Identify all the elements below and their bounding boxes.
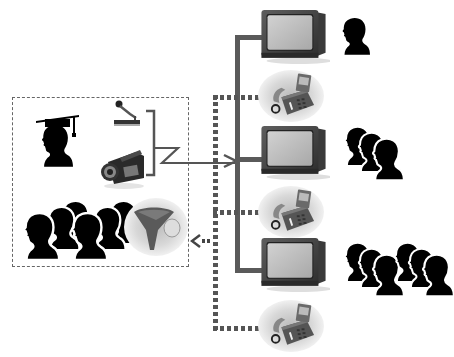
remote-1-audience-icon [340,14,370,58]
remote-3-tv-monitor-icon [258,236,330,292]
remote-1-tv-monitor-icon [258,8,330,64]
audio-branch-3 [213,326,261,331]
remote-2-audience-group-icon [342,124,406,184]
remote-2-telephone-icon [268,188,316,232]
remote-3-audience-group-icon [342,240,454,300]
av-source-bracket [140,108,240,180]
remote-2-tv-monitor-icon [258,124,330,180]
microphone-icon [110,100,142,128]
diagram-canvas: Distance learning videoconference networ… [0,0,454,357]
speakerphone-icon [132,206,182,254]
teacher-graduate-icon [33,113,83,168]
video-trunk-line [235,35,240,273]
remote-3-telephone-icon [268,302,316,346]
audio-branch-1 [213,95,261,100]
remote-1-telephone-icon [268,72,316,116]
audio-return-arrow-icon [190,233,212,249]
audio-branch-2 [213,210,261,215]
local-students-group-icon [20,200,130,260]
